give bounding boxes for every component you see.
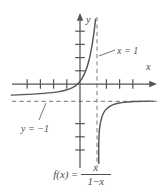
- formula-function-name: f(x): [53, 169, 68, 180]
- formula-numerator: x: [89, 162, 102, 174]
- formula-fraction: x 1−x: [81, 162, 111, 187]
- formula-equals-sign: =: [71, 169, 79, 180]
- curve-right-branch: [99, 101, 153, 163]
- vertical-asymptote-label: x = 1: [117, 46, 138, 56]
- function-formula: f(x) = x 1−x: [0, 162, 164, 187]
- y-axis-label: y: [86, 15, 91, 26]
- formula-denominator-right: x: [99, 175, 104, 187]
- horizontal-asymptote-leader-line: [39, 103, 46, 120]
- formula-denominator: 1−x: [84, 175, 107, 187]
- vertical-asymptote-leader-line: [99, 50, 115, 56]
- x-axis-label: x: [146, 62, 151, 73]
- function-graph-figure: x y x = 1 y = −1 f(x) = x 1−x: [0, 0, 164, 194]
- horizontal-asymptote-label: y = −1: [21, 124, 49, 134]
